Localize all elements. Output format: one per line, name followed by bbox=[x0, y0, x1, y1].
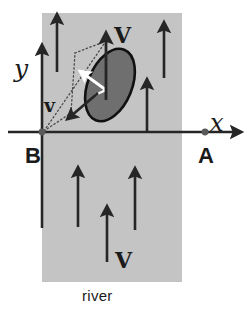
vector-label-V-resultant: V bbox=[114, 24, 131, 46]
x-axis-label: x bbox=[210, 111, 224, 135]
point-B-marker bbox=[39, 129, 46, 136]
river-label: river bbox=[82, 288, 113, 303]
point-label-a: A bbox=[198, 145, 214, 167]
point-label-b: B bbox=[25, 145, 41, 167]
river-crossing-diagram: y x A B V v V river bbox=[0, 0, 248, 312]
point-A-marker bbox=[202, 129, 209, 136]
vector-label-V-current: V bbox=[115, 249, 132, 271]
y-axis-label: y bbox=[14, 56, 28, 81]
vector-label-v-relative: v bbox=[44, 96, 55, 115]
